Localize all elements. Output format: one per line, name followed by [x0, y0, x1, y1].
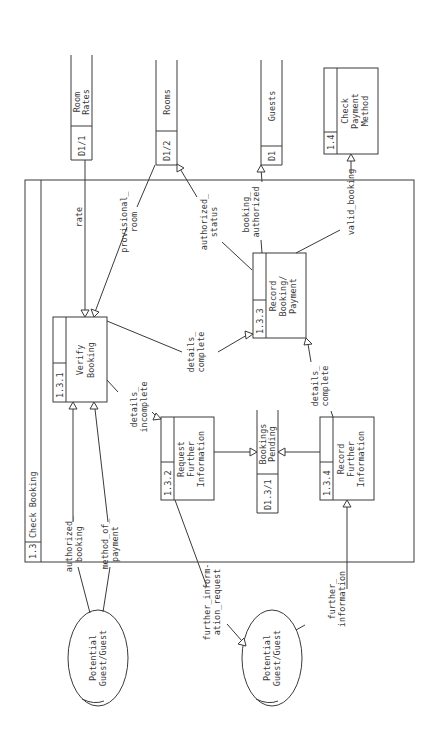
process-label-line: Information	[356, 431, 366, 487]
datastore-id: D1/2	[162, 141, 172, 161]
process-label-line: Record	[268, 281, 278, 312]
flow-label-line: method_of_	[100, 518, 110, 570]
process-label-line: Further	[346, 441, 356, 477]
external-entity-potential-guest[interactable]: Potential Guest/Guest	[68, 610, 128, 706]
process-label-line: Booking/	[278, 276, 288, 317]
datastore-rooms[interactable]: D1/2 Rooms	[156, 60, 177, 165]
process-label-line: Method	[360, 96, 370, 127]
process-id: 1.3.2	[163, 470, 173, 496]
flow-label-line: booking_	[241, 191, 251, 233]
flow-label-line: booking	[74, 526, 84, 562]
datastore-id: D1/1	[77, 136, 87, 156]
flow-label-line: provisional_	[119, 190, 129, 252]
frame-title: Check Booking	[28, 471, 38, 538]
flow-label-line: authorized_	[64, 515, 74, 572]
data-flow-diagram: 1.3 Check Booking 1.3.1 Verify Booking 1…	[0, 0, 439, 752]
process-label-line: Payment	[350, 93, 360, 129]
process-label-line: Verify	[75, 345, 85, 376]
flow-label-line: information	[337, 571, 347, 627]
flow-label-line: details_	[186, 331, 196, 373]
process-check-payment-method[interactable]: 1.4 Check Payment Method	[324, 68, 378, 154]
datastore-label-line: Pending	[267, 426, 277, 462]
external-entity-potential-guest[interactable]: Potential Guest/Guest	[242, 610, 302, 706]
process-request-further-information[interactable]: 1.3.2 Request Further Information	[161, 417, 214, 500]
process-label-line: Information	[196, 431, 206, 487]
process-label-line: Check	[340, 98, 350, 124]
flow-label-line: complete	[196, 332, 206, 373]
entity-label-line: Potential	[88, 635, 98, 681]
flow-label-line: incomplete	[139, 381, 149, 432]
datastore-id: D1	[267, 151, 277, 161]
flow-label-line: payment	[110, 526, 120, 562]
flow-label-line: further_	[327, 578, 337, 620]
process-label-line: Request	[176, 441, 186, 477]
process-label-line: Further	[186, 441, 196, 477]
process-id: 1.3.3	[255, 308, 265, 334]
diagram-canvas: 1.3 Check Booking 1.3.1 Verify Booking 1…	[25, 55, 414, 706]
process-label-line: Payment	[288, 278, 298, 314]
process-label-line: Booking	[86, 342, 96, 378]
process-id: 1.3.1	[55, 372, 65, 398]
flow-label-line: room	[129, 212, 139, 232]
flow-label-line: ation_request	[212, 569, 222, 636]
process-record-further-information[interactable]: 1.3.4 Record Further Information	[320, 417, 374, 500]
flow-label-line: authorized	[251, 186, 261, 237]
flow-label-line: details_	[310, 365, 320, 407]
frame-id: 1.3	[28, 544, 38, 559]
entity-label-line: Guest/Guest	[98, 630, 108, 686]
process-record-booking-payment[interactable]: 1.3.3 Record Booking/ Payment	[253, 253, 306, 338]
datastore-label-line: Rooms	[162, 89, 172, 115]
entity-label-line: Guest/Guest	[272, 630, 282, 686]
datastore-room-rates[interactable]: D1/1 Room Rates	[71, 55, 92, 160]
datastore-guests[interactable]: D1 Guests	[261, 60, 282, 165]
process-label-line: Record	[336, 444, 346, 475]
process-verify-booking[interactable]: 1.3.1 Verify Booking	[53, 317, 107, 402]
flow-label-line: complete	[320, 366, 330, 407]
process-id: 1.4	[326, 135, 336, 150]
entity-label-line: Potential	[262, 635, 272, 681]
process-id: 1.3.4	[322, 470, 332, 496]
flow-label-line: valid_booking	[346, 169, 356, 236]
datastore-label-line: Guests	[267, 91, 277, 122]
datastore-id: D1.3/1	[263, 479, 273, 510]
flow-label-line: rate	[74, 207, 84, 227]
datastore-label-line: Rates	[81, 89, 91, 115]
flow-label-line: authorized_	[199, 193, 209, 250]
flow-label-line: further_inform-	[202, 564, 212, 641]
flow-label-line: details_	[129, 386, 139, 428]
flow-label-line: status	[209, 207, 219, 238]
